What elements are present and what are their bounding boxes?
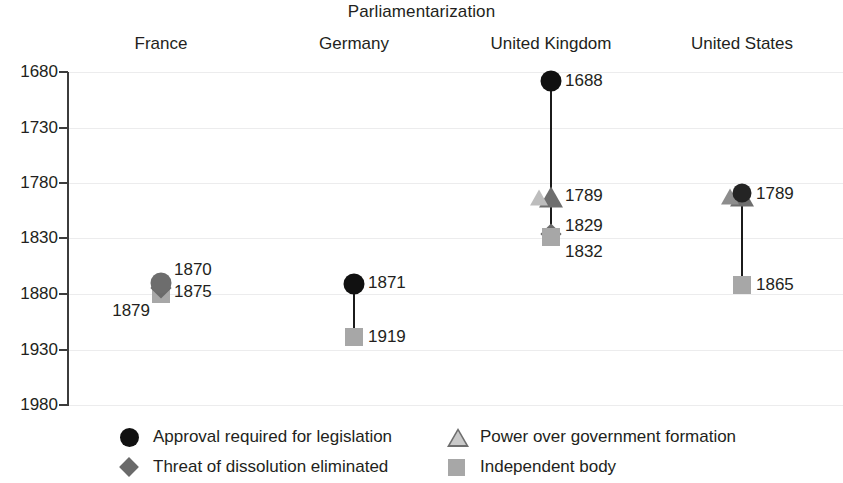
legend-item-threat-dissolution: Threat of dissolution eliminated — [120, 457, 388, 477]
legend-label-power-over-government: Power over government formation — [480, 427, 736, 447]
square-marker-icon — [447, 459, 473, 476]
legend-label-threat-dissolution: Threat of dissolution eliminated — [153, 457, 388, 477]
triangle-marker-icon — [447, 428, 473, 447]
legend-label-independent-body: Independent body — [480, 457, 616, 477]
circle-marker-icon — [120, 428, 146, 447]
diamond-marker-icon — [120, 460, 146, 474]
legend-item-independent-body: Independent body — [447, 457, 616, 477]
parliamentarization-chart: Parliamentarization France Germany Unite… — [0, 0, 843, 483]
chart-legend: Approval required for legislation Threat… — [0, 0, 843, 483]
legend-item-power-over-government: Power over government formation — [447, 427, 736, 447]
legend-item-approval-required: Approval required for legislation — [120, 427, 392, 447]
legend-label-approval-required: Approval required for legislation — [153, 427, 392, 447]
